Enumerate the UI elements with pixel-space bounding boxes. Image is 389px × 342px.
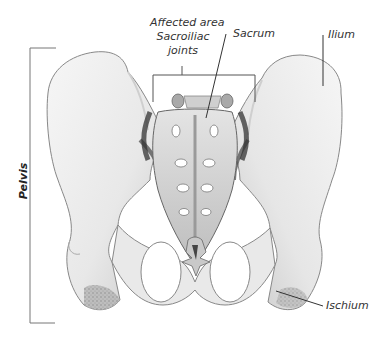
ischium-label: Ischium	[326, 300, 369, 312]
joints-label: joints	[150, 45, 216, 57]
sacroiliac-label: Sacroiliac	[150, 31, 216, 43]
pelvis-label: Pelvis	[18, 161, 30, 201]
sacrum-label: Sacrum	[233, 28, 275, 40]
ilium-label: Ilium	[328, 29, 355, 41]
affected-area-label: Affected area	[150, 17, 222, 29]
